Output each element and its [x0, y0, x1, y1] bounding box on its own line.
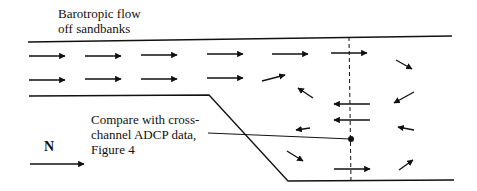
title-label-line-2: off sandbanks [58, 21, 130, 36]
flow-arrow [298, 88, 313, 98]
top-bank-line [28, 36, 452, 42]
flow-arrow [287, 151, 303, 161]
annotation-line-1: Compare with cross- [91, 112, 199, 127]
annotation-leader-line [208, 133, 351, 139]
north-label: N [44, 139, 54, 154]
flow-arrow [399, 160, 413, 170]
flow-arrow [398, 127, 414, 130]
measurement-point [348, 136, 354, 142]
flow-arrows-row-1 [29, 53, 367, 56]
flow-arrow [394, 92, 414, 103]
annotation-line-2: channel ADCP data, [91, 127, 196, 142]
flow-arrow [396, 60, 412, 69]
flow-arrows-row-2 [29, 75, 285, 81]
annotation-line-3: Figure 4 [91, 142, 135, 157]
cross-section-dashed-line [349, 37, 351, 181]
flow-arrow [296, 128, 310, 130]
title-label-line-1: Barotropic flow [58, 6, 141, 21]
flow-arrow [262, 75, 285, 81]
